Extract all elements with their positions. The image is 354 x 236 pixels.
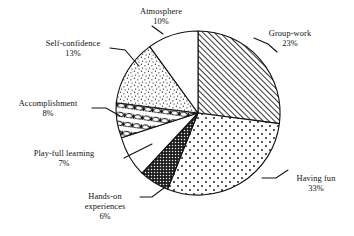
pie-label-accomplishment-name: Accomplishment: [19, 99, 78, 108]
pie-label-self-confidence-name: Self-confidence: [46, 39, 101, 48]
pie-label-self-confidence-percent: 13%: [65, 49, 80, 58]
pie-label-having-fun: Having fun 33%: [297, 174, 337, 193]
pie-slices: [116, 31, 280, 195]
pie-label-having-fun-percent: 33%: [308, 184, 323, 193]
leader-line-atmosphere: [152, 26, 163, 34]
pie-label-self-confidence: Self-confidence 13%: [46, 39, 101, 58]
pie-label-atmosphere-name: Atmosphere: [140, 7, 182, 16]
leader-line-having-fun: [262, 170, 288, 178]
pie-label-hands-on-name-line1: Hands-on: [88, 192, 122, 201]
pie-label-accomplishment-percent: 8%: [42, 109, 53, 118]
pie-label-hands-on-experiences: Hands-on experiences 6%: [85, 192, 126, 221]
pie-label-hands-on-percent: 6%: [99, 212, 110, 221]
pie-label-atmosphere-percent: 10%: [153, 17, 168, 26]
pie-label-atmosphere: Atmosphere 10%: [140, 7, 182, 26]
pie-label-play-full-learning: Play-full learning 7%: [34, 149, 95, 168]
pie-chart-canvas: Atmosphere 10% Self-confidence 13% Accom…: [0, 0, 354, 236]
pie-slice-group-work[interactable]: [198, 31, 280, 124]
pie-chart-figure: Atmosphere 10% Self-confidence 13% Accom…: [0, 0, 354, 236]
leader-line-hands-on: [140, 188, 164, 197]
pie-label-group-work: Group-work 23%: [269, 29, 312, 48]
pie-label-having-fun-name: Having fun: [297, 174, 337, 183]
leader-line-group-work: [254, 38, 277, 52]
pie-label-group-work-name: Group-work: [269, 29, 312, 38]
pie-label-accomplishment: Accomplishment 8%: [19, 99, 78, 118]
pie-label-play-full-learning-percent: 7%: [58, 159, 69, 168]
pie-label-play-full-learning-name: Play-full learning: [34, 149, 95, 158]
pie-label-group-work-percent: 23%: [282, 39, 297, 48]
pie-label-hands-on-name-line2: experiences: [85, 202, 126, 211]
